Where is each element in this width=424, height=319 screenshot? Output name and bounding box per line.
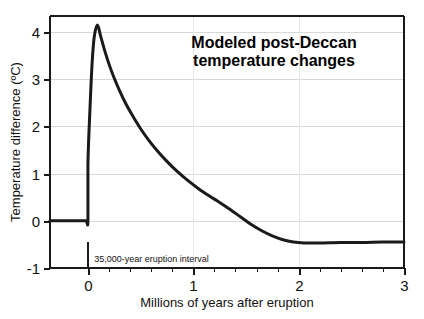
chart-title-line-2: temperature changes <box>193 52 355 69</box>
x-tick-label-0: 0 <box>84 277 92 294</box>
temperature-line-chart: 35,000-year eruption interval -101234 01… <box>0 0 424 319</box>
y-tick-label--1: -1 <box>27 260 40 277</box>
x-axis-title: Millions of years after eruption <box>140 295 313 310</box>
y-axis-title: Temperature difference (ºC) <box>8 62 23 222</box>
y-tick-label-2: 2 <box>32 118 40 135</box>
y-tick-label-4: 4 <box>32 24 40 41</box>
y-tick-label-1: 1 <box>32 166 40 183</box>
eruption-interval-label: 35,000-year eruption interval <box>94 254 209 264</box>
y-tick-label-3: 3 <box>32 71 40 88</box>
x-tick-label-2: 2 <box>295 277 303 294</box>
x-tick-label-1: 1 <box>189 277 197 294</box>
chart-title-line-1: Modeled post-Deccan <box>191 34 356 51</box>
y-tick-label-0: 0 <box>32 213 40 230</box>
chart-figure: 35,000-year eruption interval -101234 01… <box>0 0 424 319</box>
x-tick-label-3: 3 <box>400 277 408 294</box>
